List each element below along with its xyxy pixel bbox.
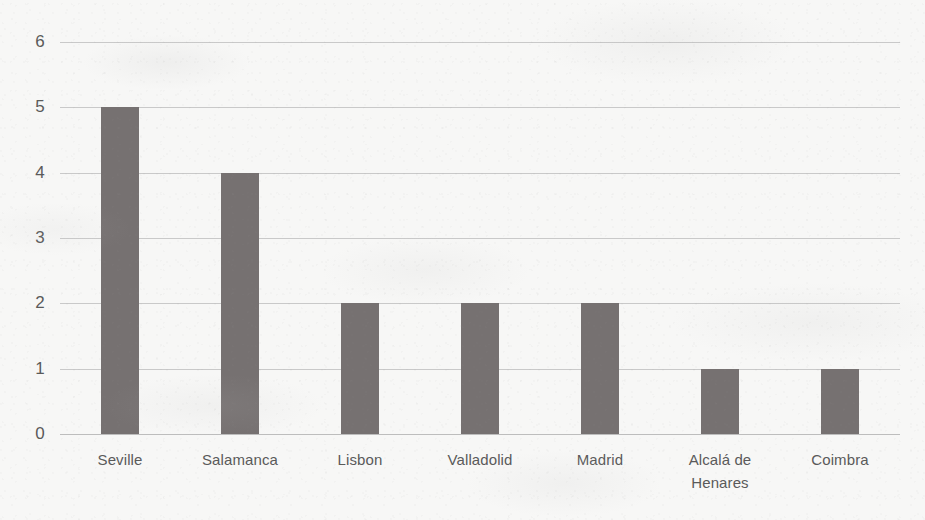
bar-alcalá-de-henares[interactable] bbox=[701, 369, 739, 434]
y-axis-tick-labels: 0123456 bbox=[0, 0, 45, 520]
y-tick-label-1: 1 bbox=[35, 360, 45, 377]
gridline-0 bbox=[60, 434, 900, 435]
x-tick-label-seville: Seville bbox=[60, 448, 180, 471]
gridline-6 bbox=[60, 42, 900, 43]
x-tick-label-valladolid: Valladolid bbox=[420, 448, 540, 471]
gridline-3 bbox=[60, 238, 900, 239]
y-tick-label-5: 5 bbox=[35, 98, 45, 115]
bar-valladolid[interactable] bbox=[461, 303, 499, 434]
x-tick-label-coimbra: Coimbra bbox=[780, 448, 900, 471]
bar-lisbon[interactable] bbox=[341, 303, 379, 434]
gridline-5 bbox=[60, 107, 900, 108]
y-tick-label-2: 2 bbox=[35, 294, 45, 311]
bar-coimbra[interactable] bbox=[821, 369, 859, 434]
x-tick-label-madrid: Madrid bbox=[540, 448, 660, 471]
y-tick-label-4: 4 bbox=[35, 164, 45, 181]
y-tick-label-0: 0 bbox=[35, 425, 45, 442]
bar-chart: 0123456 SevilleSalamancaLisbonValladolid… bbox=[0, 0, 925, 520]
bar-madrid[interactable] bbox=[581, 303, 619, 434]
y-tick-label-6: 6 bbox=[35, 33, 45, 50]
y-tick-label-3: 3 bbox=[35, 229, 45, 246]
bar-salamanca[interactable] bbox=[221, 173, 259, 434]
x-tick-label-salamanca: Salamanca bbox=[180, 448, 300, 471]
gridline-4 bbox=[60, 173, 900, 174]
bar-seville[interactable] bbox=[101, 107, 139, 434]
x-tick-label-lisbon: Lisbon bbox=[300, 448, 420, 471]
x-tick-label-alcalá-de-henares: Alcalá de Henares bbox=[660, 448, 780, 494]
